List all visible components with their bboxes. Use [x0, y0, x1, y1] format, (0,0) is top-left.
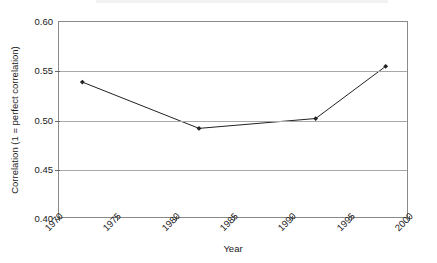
y-axis-tick-label: 0.50: [23, 116, 53, 126]
y-axis-tick: [55, 170, 60, 171]
line-chart: Correlation (1 = perfect correlation) Ye…: [0, 0, 437, 263]
image-edge-artifact: [96, 0, 388, 3]
y-axis-tick-label: 0.55: [23, 66, 53, 76]
y-axis-title: Correlation (1 = perfect correlation): [9, 46, 20, 194]
y-axis-tick-label: 0.45: [23, 165, 53, 175]
y-axis-tick: [55, 121, 60, 122]
data-point-marker: [197, 126, 202, 131]
series-line: [82, 66, 385, 128]
y-gridline: [59, 71, 407, 72]
y-gridline: [59, 170, 407, 171]
y-axis-tick: [55, 71, 60, 72]
y-axis-tick-label: 0.60: [23, 17, 53, 27]
plot-area: 0.600.550.500.450.4019701975198019851990…: [58, 21, 408, 218]
y-gridline: [59, 121, 407, 122]
x-axis-title: Year: [58, 243, 408, 254]
data-point-marker: [80, 80, 85, 85]
